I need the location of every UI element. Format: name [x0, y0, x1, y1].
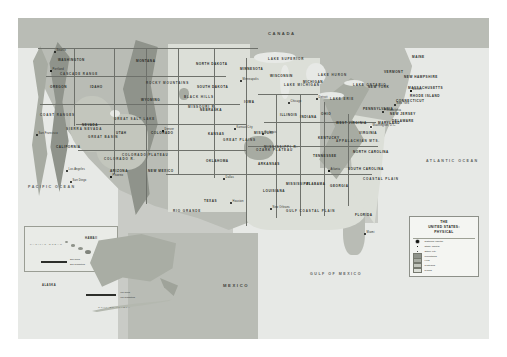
- city-label-boston: Boston: [413, 89, 422, 92]
- state-label-tennessee: TENNESSEE: [313, 155, 337, 158]
- feature-label-lake-erie: LAKE ERIE: [330, 98, 354, 101]
- feature-label-ozark-plateau: OZARK PLATEAU: [256, 149, 293, 152]
- feature-label-coast-ranges: COAST RANGES: [40, 114, 75, 117]
- state-label-iowa: IOWA: [244, 101, 254, 104]
- feature-label-missouri-r: MISSOURI R.: [188, 106, 217, 109]
- ocean-label-gulf-of-mexico: GULF OF MEXICO: [310, 273, 362, 277]
- alaska-scalebar: [86, 294, 116, 296]
- state-label-georgia: GEORGIA: [330, 185, 348, 188]
- feature-label-gulf-coastal-plain: GULF COASTAL PLAIN: [286, 210, 335, 213]
- border-vert-9: [324, 102, 325, 216]
- city-label-new-orleans: New Orleans: [273, 207, 290, 210]
- city-marker-miami: [364, 233, 366, 235]
- alaska-gulf-label: GULF OF ALASKA: [98, 306, 131, 309]
- gulf-water: [233, 223, 433, 339]
- feature-label-lake-superior: LAKE SUPERIOR: [268, 58, 304, 61]
- state-label-north-carolina: NORTH CAROLINA: [353, 151, 389, 154]
- city-marker-phoenix: [110, 176, 112, 178]
- city-label-houston: Houston: [233, 201, 244, 204]
- state-label-new-jersey: NEW JERSEY: [390, 113, 416, 116]
- alaska-aleutians: [92, 298, 172, 312]
- ocean-label-pacific-ocean: PACIFIC OCEAN: [28, 186, 76, 190]
- legend-symbol-dot-icon: [413, 250, 422, 253]
- feature-label-lake-huron: LAKE HURON: [318, 74, 347, 77]
- city-marker-kansas-city: [234, 128, 236, 130]
- state-label-oklahoma: OKLAHOMA: [206, 160, 229, 163]
- border-line-9: [258, 94, 318, 95]
- city-marker-detroit: [316, 98, 318, 100]
- border-vert-4: [178, 48, 179, 174]
- border-vert-8: [300, 94, 301, 216]
- border-vert-7: [276, 94, 277, 218]
- city-marker-portland: [50, 70, 52, 72]
- city-marker-philadelphia: [382, 111, 384, 113]
- legend-glyph-square: [417, 246, 419, 248]
- legend-row-plains: Plains: [413, 269, 475, 272]
- city-label-kansas-city: Kansas City: [237, 127, 253, 130]
- city-label-dallas: Dallas: [226, 177, 234, 180]
- border-vert-2: [114, 48, 115, 174]
- city-marker-atlanta: [328, 170, 330, 172]
- legend-label-plains: Plains: [425, 269, 432, 272]
- state-label-montana: MONTANA: [136, 60, 155, 63]
- city-marker-los-angeles: [66, 170, 68, 172]
- legend-row-state-capital: State capital: [413, 245, 475, 248]
- hawaii-island-3: [78, 247, 83, 250]
- state-label-south-carolina: SOUTH CAROLINA: [348, 168, 384, 171]
- legend-glyph-star: [416, 240, 419, 243]
- border-line-3: [76, 124, 246, 125]
- legend-symbol-square-icon: [413, 245, 422, 248]
- city-label-new-york: New York: [397, 103, 410, 106]
- state-label-arizona: ARIZONA: [110, 170, 128, 173]
- legend-row-other-city: Other city: [413, 250, 475, 253]
- legend-title-line3: PHYSICAL: [413, 230, 475, 235]
- city-label-chicago: Chicago: [291, 101, 302, 104]
- city-marker-new-york: [394, 104, 396, 106]
- feature-label-coastal-plain: COASTAL PLAIN: [363, 178, 399, 181]
- alaska-scale-miles: 400 miles: [120, 291, 130, 293]
- state-label-illinois: ILLINOIS: [280, 114, 297, 117]
- legend-swatch-plains: [413, 269, 422, 272]
- legend-row-hills: Hills: [413, 259, 475, 262]
- state-label-colorado: COLORADO: [151, 132, 173, 135]
- city-marker-st-louis: [262, 133, 264, 135]
- alaska-inset-label: ALASKA: [42, 284, 56, 287]
- city-marker-denver: [162, 130, 164, 132]
- border-line-6: [246, 174, 372, 175]
- state-label-south-dakota: SOUTH DAKOTA: [197, 86, 228, 89]
- hawaii-scale-km: 200 kilometers: [70, 263, 85, 265]
- feature-label-mississippi-r: MISSISSIPPI R.: [264, 146, 298, 149]
- hawaii-island-4: [85, 250, 91, 254]
- border-vert-10: [348, 114, 349, 206]
- state-label-new-hampshire: NEW HAMPSHIRE: [404, 76, 438, 79]
- city-label-portland: Portland: [53, 69, 64, 72]
- feature-label-lake-ontario: LAKE ONTARIO: [353, 84, 386, 87]
- feature-label-rocky-mountains: ROCKY MOUNTAINS: [146, 82, 189, 85]
- border-line-1: [46, 76, 226, 77]
- state-label-florida: FLORIDA: [355, 214, 373, 217]
- legend-row-national-capital: National capital: [413, 240, 475, 243]
- city-label-los-angeles: Los Angeles: [69, 169, 85, 172]
- city-label-st-louis: St. Louis: [265, 132, 277, 135]
- state-label-virginia: VIRGINIA: [359, 132, 377, 135]
- state-label-louisiana: LOUISIANA: [263, 190, 285, 193]
- feature-label-sierra-nevada: SIERRA NEVADA: [66, 128, 102, 131]
- city-label-san-francisco: San Francisco: [39, 133, 58, 136]
- country-label-mexico: MEXICO: [223, 284, 249, 288]
- feature-label-cascade-range: CASCADE RANGE: [60, 73, 98, 76]
- legend-swatch-mountains: [413, 254, 422, 257]
- city-label-washington-d-c: Washington, D.C.: [373, 125, 396, 128]
- hawaii-inset-label: HAWAII: [85, 237, 98, 240]
- feature-label-great-salt-lake: GREAT SALT LAKE: [114, 118, 155, 121]
- city-marker-new-orleans: [270, 208, 272, 210]
- feature-label-colorado-r: COLORADO R.: [104, 158, 135, 161]
- hawaii-island-1: [65, 241, 68, 243]
- alaska-mainland: [90, 234, 176, 300]
- state-label-rhode-island: RHODE ISLAND: [410, 95, 440, 98]
- legend-glyph-dot: [417, 251, 419, 253]
- state-label-new-mexico: NEW MEXICO: [148, 170, 174, 173]
- alaska-scale-km: 400 kilometers: [120, 296, 135, 298]
- feature-label-lake-michigan: LAKE MICHIGAN: [284, 84, 320, 87]
- city-label-atlanta: Atlanta: [331, 169, 340, 172]
- hawaii-scalebar: [41, 261, 67, 263]
